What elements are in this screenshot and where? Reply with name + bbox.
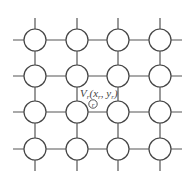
grid-network-diagram: Vr(xr, yr) r xyxy=(0,0,191,184)
svg-text:r: r xyxy=(92,101,95,109)
grid-node xyxy=(149,138,171,160)
grid-node xyxy=(149,65,171,87)
r-marker: r xyxy=(89,100,97,109)
grid-node xyxy=(24,65,46,87)
grid-node xyxy=(66,29,88,51)
grid-node xyxy=(66,101,88,123)
grid-node xyxy=(24,29,46,51)
svg-text:Vr(xr, yr): Vr(xr, yr) xyxy=(80,87,118,101)
grid-node xyxy=(66,138,88,160)
grid-node xyxy=(149,101,171,123)
grid-node xyxy=(107,29,129,51)
grid-node xyxy=(66,65,88,87)
grid-node xyxy=(107,65,129,87)
grid-node xyxy=(107,138,129,160)
grid-node xyxy=(24,101,46,123)
grid-node xyxy=(149,29,171,51)
grid-node xyxy=(107,101,129,123)
node-label: Vr(xr, yr) xyxy=(80,87,118,101)
grid-node xyxy=(24,138,46,160)
